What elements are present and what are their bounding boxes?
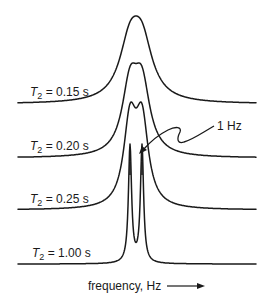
nmr-linewidth-diagram: T2 = 0.15 s T2 = 0.20 s T2 = 0.25 s T2 =… bbox=[0, 0, 267, 306]
right-arrow-icon bbox=[197, 283, 205, 289]
splitting-annotation-label: 1 Hz bbox=[217, 119, 242, 133]
splitting-leader-line bbox=[143, 126, 214, 150]
spectrum-label-t2-0.15: T2 = 0.15 s bbox=[30, 85, 89, 101]
spectrum-label-t2-0.25: T2 = 0.25 s bbox=[30, 192, 89, 208]
spectrum-label-t2-1.00: T2 = 1.00 s bbox=[32, 246, 91, 262]
x-axis-label: frequency, Hz bbox=[88, 279, 161, 293]
spectrum-label-t2-0.20: T2 = 0.20 s bbox=[30, 139, 89, 155]
